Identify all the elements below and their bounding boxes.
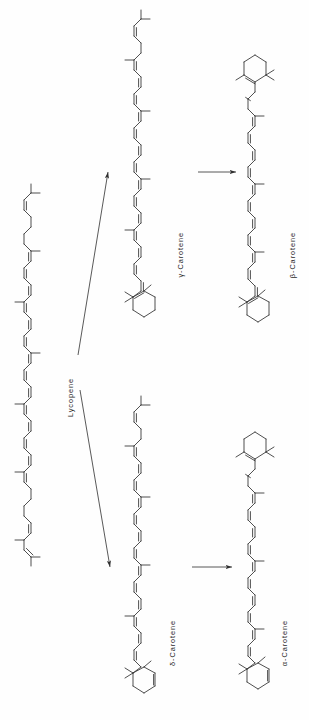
label-lycopene: Lycopene <box>66 378 75 417</box>
label-delta-carotene: δ-Carotene <box>168 620 177 666</box>
beta-carotene-structure-instance <box>236 55 274 322</box>
carotenoid-pathway-diagram: Lycopene γ-Carotene β-Carotene δ-Caroten… <box>0 0 309 720</box>
pathway-svg <box>0 0 309 720</box>
label-alpha-carotene: α-Carotene <box>280 620 289 666</box>
delta-carotene-structure-instance <box>125 396 155 693</box>
arrow-lycopene-to-gamma <box>78 172 108 355</box>
gamma-carotene-structure-instance <box>125 10 155 317</box>
arrow-lycopene-to-delta <box>80 390 110 567</box>
label-beta-carotene: β-Carotene <box>288 232 297 278</box>
lycopene-structure-instance <box>15 184 40 566</box>
label-gamma-carotene: γ-Carotene <box>176 232 185 278</box>
alpha-carotene-structure-instance <box>236 432 274 689</box>
